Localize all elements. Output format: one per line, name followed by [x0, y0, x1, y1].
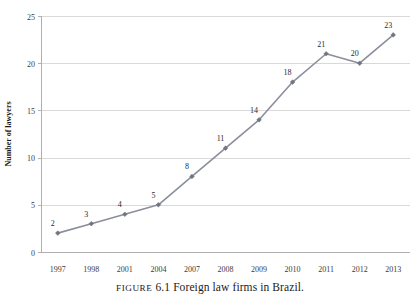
- data-point-label: 23: [384, 21, 392, 30]
- x-tick-label: 2007: [184, 265, 200, 274]
- x-tick-label: 1997: [50, 265, 66, 274]
- data-point-labels: 23458111418212023: [51, 21, 392, 228]
- series-line: [58, 35, 393, 233]
- data-point-label: 20: [351, 49, 359, 58]
- figure-page: 0510152025 19971998200120042007200820092…: [0, 0, 420, 302]
- caption-figure-text: Foreign law firms in Brazil.: [173, 281, 304, 293]
- data-point-label: 5: [151, 191, 155, 200]
- data-point-label: 3: [84, 210, 88, 219]
- y-axis: 0510152025: [27, 13, 42, 258]
- y-tick-label: 5: [31, 201, 35, 210]
- gridlines: [41, 17, 410, 206]
- data-marker: [89, 221, 94, 226]
- x-tick-label: 2012: [352, 265, 368, 274]
- line-chart: 0510152025 19971998200120042007200820092…: [0, 0, 420, 280]
- y-tick-label: 0: [31, 249, 35, 258]
- data-series-line: [58, 35, 393, 233]
- data-point-label: 14: [250, 106, 258, 115]
- x-tick-label: 2013: [385, 265, 401, 274]
- x-tick-label: 2001: [117, 265, 133, 274]
- y-tick-label: 15: [27, 107, 35, 116]
- y-axis-title-text: Number of lawyers: [4, 101, 13, 166]
- data-point-label: 18: [284, 68, 292, 77]
- data-point-label: 11: [217, 134, 225, 143]
- data-point-label: 21: [317, 40, 325, 49]
- data-marker: [123, 212, 128, 217]
- caption-figure-number: 6.1: [155, 281, 170, 293]
- y-tick-label: 25: [27, 13, 35, 22]
- x-axis: 1997199820012004200720082009201020112012…: [42, 253, 411, 275]
- data-marker: [55, 231, 60, 236]
- x-tick-label: 2008: [218, 265, 234, 274]
- y-tick-label: 20: [27, 60, 35, 69]
- y-axis-title: Number of lawyers: [4, 101, 13, 166]
- x-tick-label: 2010: [285, 265, 301, 274]
- data-point-label: 8: [185, 162, 189, 171]
- y-tick-label: 10: [27, 154, 35, 163]
- x-tick-label: 1998: [83, 265, 99, 274]
- caption-figure-word: FIGURE: [116, 283, 152, 293]
- data-point-label: 4: [118, 200, 122, 209]
- x-tick-label: 2009: [251, 265, 267, 274]
- x-tick-label: 2011: [318, 265, 334, 274]
- data-point-label: 2: [51, 219, 55, 228]
- x-tick-label: 2004: [150, 265, 166, 274]
- figure-caption: FIGURE 6.1 Foreign law firms in Brazil.: [0, 281, 420, 293]
- chart-figure: 0510152025 19971998200120042007200820092…: [0, 0, 420, 280]
